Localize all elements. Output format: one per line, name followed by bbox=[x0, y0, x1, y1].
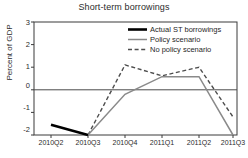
series-line-actual-st-borrowings bbox=[51, 125, 88, 135]
series-line-no-policy-scenario bbox=[88, 65, 233, 135]
x-tick-2010q3: 2010Q3 bbox=[68, 139, 108, 146]
x-tick-2011q3: 2011Q3 bbox=[213, 139, 248, 146]
x-tick-2010q2: 2010Q2 bbox=[31, 139, 71, 146]
series-line-policy-scenario bbox=[88, 77, 233, 135]
x-tick-2011q1: 2011Q1 bbox=[142, 139, 182, 146]
legend-label-actual-st-borrowings: Actual ST borrowings bbox=[150, 25, 221, 34]
x-tick-2010q4: 2010Q4 bbox=[105, 139, 145, 146]
plot-area bbox=[0, 0, 248, 158]
legend-label-policy-scenario: Policy scenario bbox=[150, 35, 200, 44]
chart-figure: Short-term borrowings Percent of GDP 3 2… bbox=[0, 0, 248, 158]
legend-label-no-policy-scenario: No policy scenario bbox=[150, 45, 211, 54]
